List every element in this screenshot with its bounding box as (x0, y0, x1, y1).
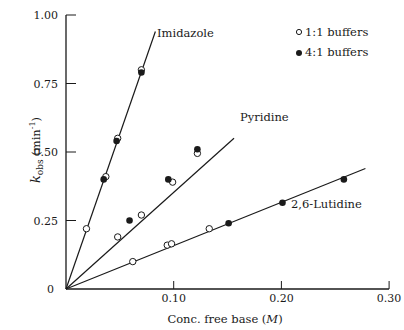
y-axis-close: ) (29, 117, 43, 122)
open-point (206, 226, 212, 232)
filled-point (100, 176, 107, 183)
series-2-6-lutidine (66, 168, 365, 289)
open-point (138, 212, 144, 218)
legend-open-label: 1:1 buffers (305, 25, 368, 39)
filled-point (341, 176, 348, 183)
series-label-pyridine: Pyridine (240, 110, 289, 124)
filled-point (113, 138, 120, 145)
x-axis-title-main: Conc. free base ( (167, 312, 266, 326)
x-tick-label: 0.10 (161, 292, 186, 305)
filled-point (194, 146, 201, 153)
open-point (130, 258, 136, 264)
filled-point (138, 69, 145, 76)
chart-svg: 00.250.500.751.00 0.100.200.30 kobs (min… (0, 0, 404, 330)
svg-text:kobs (min-1): kobs (min-1) (28, 117, 45, 183)
filled-point (225, 220, 232, 227)
series-imidazole (66, 31, 155, 289)
filled-point (126, 217, 133, 224)
y-axis-unit: (min (29, 129, 43, 156)
x-axis-title: Conc. free base (M) (167, 312, 282, 326)
y-tick-label: 0.25 (34, 215, 59, 228)
fit-line (66, 138, 234, 289)
legend: 1:1 buffers 4:1 buffers (296, 25, 368, 59)
series-label-imidazole: Imidazole (157, 26, 214, 40)
open-point (114, 234, 120, 240)
series-pyridine (66, 138, 234, 289)
filled-point (165, 176, 172, 183)
series-layer (66, 31, 365, 289)
y-axis-sub: obs (35, 159, 45, 175)
x-ticks: 0.100.200.30 (161, 281, 401, 305)
filled-point (279, 199, 286, 206)
y-axis-title: kobs (min-1) (28, 117, 45, 183)
legend-filled-marker-icon (296, 50, 302, 56)
kinetics-chart: 00.250.500.751.00 0.100.200.30 kobs (min… (0, 0, 404, 330)
open-point (168, 241, 174, 247)
x-axis-title-close: ) (278, 312, 283, 326)
legend-open-marker-icon (296, 29, 301, 34)
y-tick-label: 1.00 (34, 9, 59, 22)
open-point (83, 226, 89, 232)
y-tick-label: 0 (47, 283, 54, 296)
x-tick-label: 0.30 (377, 292, 402, 305)
series-label-lutidine: 2,6-Lutidine (291, 197, 362, 211)
x-tick-label: 0.20 (269, 292, 294, 305)
legend-filled-label: 4:1 buffers (305, 45, 368, 59)
y-axis-k: k (28, 175, 43, 183)
y-axis-exp: -1 (28, 121, 37, 129)
fit-line (66, 168, 365, 289)
y-tick-label: 0.75 (34, 78, 59, 91)
